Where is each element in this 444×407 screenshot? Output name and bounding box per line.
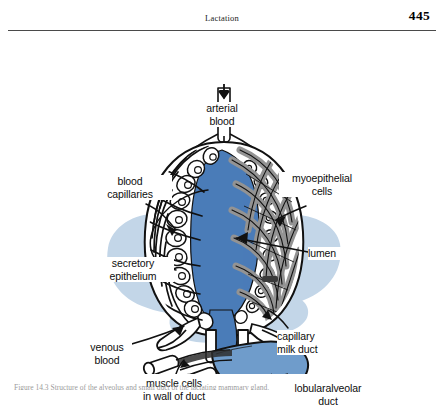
page-header: Lactation 445 — [0, 0, 444, 34]
label-arterial-blood: arterial blood — [186, 102, 258, 127]
figure-caption: Figure 14.3 Structure of the alveolus an… — [14, 383, 430, 390]
page-title: Lactation — [0, 13, 444, 23]
header-divider — [8, 30, 436, 31]
label-capillary-milk-duct: capillary milk duct — [277, 330, 339, 355]
label-lumen: lumen — [308, 247, 352, 260]
label-secretory-epithelium: secretory epithelium — [92, 257, 174, 282]
alveolus-illustration — [0, 34, 444, 374]
page-number: 445 — [409, 8, 430, 24]
label-venous-blood: venous blood — [82, 341, 132, 366]
label-myoepithelial-cells: myoepithelial cells — [279, 172, 365, 197]
mammary-alveolus-figure: arterial blood blood capillaries myoepit… — [0, 34, 444, 374]
label-blood-capillaries: blood capillaries — [88, 175, 172, 200]
